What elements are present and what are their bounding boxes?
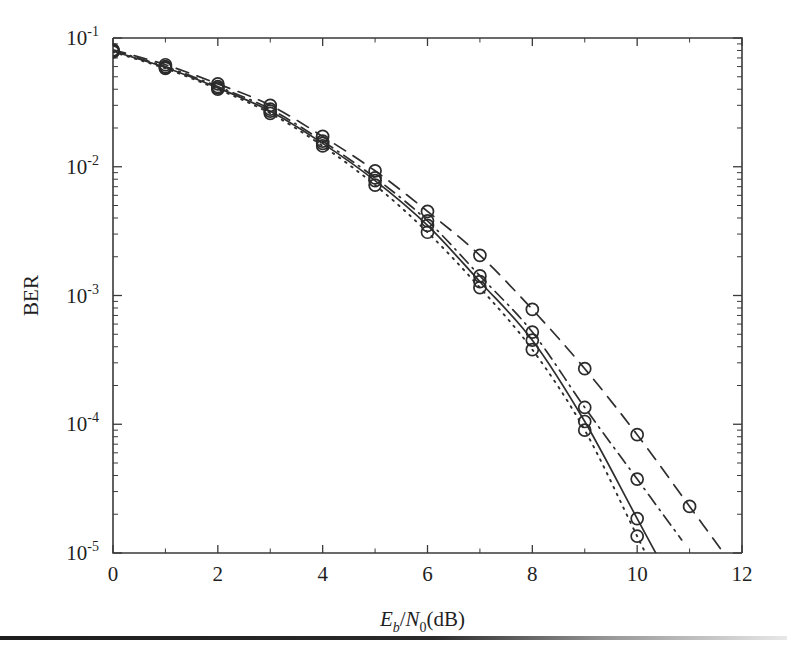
curve-solid	[113, 51, 682, 601]
figure-container: 02468101210-110-210-310-410-5Eb/N0(dB)BE…	[0, 0, 787, 650]
page-bottom-rule	[0, 636, 787, 640]
y-tick-label--1: 10-1	[66, 24, 99, 50]
axis-spines	[113, 38, 742, 553]
x-tick-label-10: 10	[627, 562, 648, 586]
ber-chart: 02468101210-110-210-310-410-5Eb/N0(dB)BE…	[0, 0, 787, 650]
curve-dashed	[113, 50, 734, 568]
markers-dotted	[107, 46, 643, 542]
curve-dashdot	[113, 50, 682, 539]
y-tick-label--5: 10-5	[66, 539, 99, 565]
markers-solid	[107, 45, 643, 524]
y-axis-title: BER	[19, 275, 43, 316]
x-tick-label-0: 0	[108, 562, 119, 586]
x-tick-label-8: 8	[527, 562, 538, 586]
x-tick-label-2: 2	[213, 562, 224, 586]
markers-dashdot	[107, 44, 643, 485]
curve-dotted	[113, 52, 682, 627]
x-tick-label-6: 6	[422, 562, 433, 586]
x-axis-title: Eb/N0(dB)	[379, 607, 465, 635]
data-point-marker	[526, 303, 538, 315]
x-tick-label-4: 4	[317, 562, 328, 586]
y-tick-label--4: 10-4	[66, 410, 99, 436]
y-tick-label--2: 10-2	[66, 153, 99, 179]
markers-dashed	[107, 44, 696, 513]
y-tick-label--3: 10-3	[66, 282, 99, 308]
axis-frame-top-right	[113, 38, 742, 553]
x-tick-label-12: 12	[732, 562, 753, 586]
